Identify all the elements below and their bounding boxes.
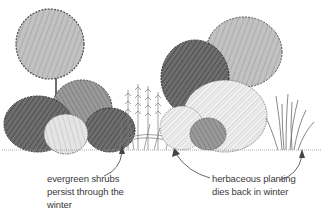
annotation-evergreen-line-1: evergreen shrubs (47, 172, 157, 185)
right-border-group (160, 17, 282, 152)
annotation-herbaceous-line-2: dies back in winter (212, 185, 322, 198)
pale-shrub-front (44, 114, 88, 154)
annotation-evergreen-line-2: persist through the (47, 185, 157, 198)
annotation-evergreen: evergreen shrubs persist through the win… (47, 172, 157, 208)
annotation-herbaceous-line-1: herbaceous planting (212, 172, 322, 185)
ornamental-grasses (266, 94, 314, 150)
topiary-ball-crown (16, 9, 84, 79)
evergreen-shrubs-group (4, 9, 135, 154)
arrow-herbaceous-left (172, 148, 210, 178)
annotation-evergreen-line-3: winter (47, 198, 157, 208)
annotation-herbaceous: herbaceous planting dies back in winter (212, 172, 322, 198)
mid-shrub-lower (190, 118, 226, 150)
dark-shrub-right (85, 108, 135, 152)
